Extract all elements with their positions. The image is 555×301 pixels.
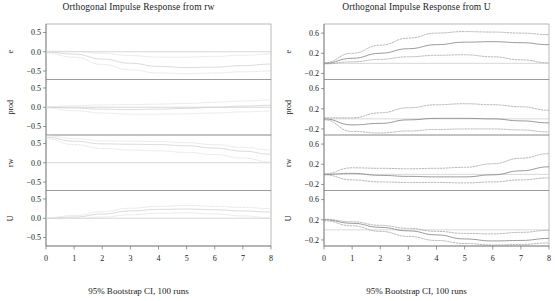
series-fit: [324, 167, 549, 177]
panel-axis-label: e: [284, 50, 293, 54]
panel-stack: 0.60.2−0.2e0.60.2−0.2prod0.60.2−0.2rw0.6…: [278, 18, 555, 280]
panel-prod: 0.50.0−0.5prod: [6, 80, 271, 136]
series-upper: [46, 136, 271, 150]
x-tick-label: 8: [269, 254, 273, 263]
x-tick-label: 2: [100, 254, 104, 263]
series-lower: [46, 139, 271, 162]
y-tick-label: −0.5: [26, 67, 41, 76]
panel-frame: [324, 191, 549, 247]
series-lower: [324, 120, 549, 133]
x-tick-label: 6: [213, 254, 217, 263]
panel-prod: 0.60.2−0.2prod: [284, 80, 549, 136]
y-tick-label: 0.2: [309, 216, 319, 225]
series-fit: [46, 52, 271, 67]
x-tick-label: 3: [128, 254, 132, 263]
panel-U: 0.60.2−0.2U: [284, 191, 549, 247]
y-tick-label: 0.5: [31, 84, 41, 93]
panel-axis-label: prod: [6, 100, 15, 115]
series-group: [324, 32, 549, 64]
series-lower: [324, 221, 549, 245]
panel-frame: [324, 135, 549, 191]
y-tick-label: −0.5: [26, 122, 41, 131]
x-tick-label: 7: [241, 254, 245, 263]
series-group: [324, 154, 549, 183]
y-tick-label: −0.2: [304, 69, 319, 78]
series-upper: [324, 219, 549, 234]
x-tick-label: 0: [322, 254, 326, 263]
y-tick-label: 0.2: [309, 49, 319, 58]
plot-area: 0.60.2−0.2e0.60.2−0.2prod0.60.2−0.2rw0.6…: [278, 18, 555, 280]
series-fit: [324, 118, 549, 125]
series-group: [324, 219, 549, 245]
plot-area: 0.50.0−0.5e0.50.0−0.5prod0.50.0−0.5rw0.5…: [0, 18, 277, 280]
figure-root: Orthogonal Impulse Response from rw 0.50…: [0, 0, 555, 301]
panel-axis-label: rw: [6, 158, 15, 167]
y-tick-label: 0.2: [309, 105, 319, 114]
y-tick-label: 0.2: [309, 160, 319, 169]
x-tick-label: 2: [378, 254, 382, 263]
y-tick-label: −0.2: [304, 125, 319, 134]
y-tick-label: −0.2: [304, 180, 319, 189]
y-tick-label: −0.5: [26, 178, 41, 187]
y-tick-label: 0.0: [31, 159, 41, 168]
impulse-response-figure-u: Orthogonal Impulse Response from U 0.60.…: [278, 0, 555, 301]
panel-axis-label: U: [284, 215, 293, 221]
figure-caption: 95% Bootstrap CI, 100 runs: [0, 286, 277, 296]
panel-stack: 0.50.0−0.5e0.50.0−0.5prod0.50.0−0.5rw0.5…: [0, 18, 277, 280]
series-fit: [324, 220, 549, 241]
panel-e: 0.60.2−0.2e: [284, 24, 549, 80]
series-group: [46, 51, 271, 74]
y-tick-label: 0.6: [309, 195, 319, 204]
series-fit: [46, 137, 271, 154]
impulse-response-figure-rw: Orthogonal Impulse Response from rw 0.50…: [0, 0, 277, 301]
y-tick-label: 0.0: [31, 48, 41, 57]
x-tick-label: 4: [157, 254, 161, 263]
figure-caption: 95% Bootstrap CI, 100 runs: [278, 286, 555, 296]
y-tick-label: −0.5: [26, 233, 41, 242]
x-tick-label: 8: [547, 254, 551, 263]
panel-frame: [324, 24, 549, 80]
series-group: [324, 104, 549, 133]
series-group: [46, 136, 271, 162]
series-lower: [324, 55, 549, 64]
y-tick-label: 0.5: [31, 28, 41, 37]
series-lower: [46, 213, 271, 219]
series-lower: [46, 53, 271, 73]
panel-e: 0.50.0−0.5e: [6, 24, 271, 80]
x-tick-label: 1: [72, 254, 76, 263]
panel-axis-label: rw: [284, 158, 293, 167]
y-tick-label: 0.5: [31, 195, 41, 204]
x-tick-label: 4: [435, 254, 439, 263]
y-tick-label: 0.0: [31, 214, 41, 223]
y-tick-label: −0.2: [304, 236, 319, 245]
x-tick-label: 5: [185, 254, 189, 263]
figure-title: Orthogonal Impulse Response from rw: [0, 2, 277, 12]
x-tick-label: 1: [350, 254, 354, 263]
series-fit: [46, 209, 271, 218]
y-tick-label: 0.6: [309, 29, 319, 38]
panel-rw: 0.60.2−0.2rw: [284, 135, 549, 191]
panel-axis-label: U: [6, 215, 15, 221]
y-tick-label: 0.6: [309, 140, 319, 149]
y-tick-label: 0.5: [31, 139, 41, 148]
x-tick-label: 6: [491, 254, 495, 263]
series-upper: [324, 104, 549, 118]
y-tick-label: 0.0: [31, 103, 41, 112]
x-tick-label: 7: [519, 254, 523, 263]
x-tick-label: 5: [463, 254, 467, 263]
panel-axis-label: e: [6, 50, 15, 54]
panel-U: 0.50.0−0.5U: [6, 191, 271, 247]
series-group: [46, 206, 271, 219]
series-upper: [46, 206, 271, 218]
x-tick-label: 3: [406, 254, 410, 263]
panel-rw: 0.50.0−0.5rw: [6, 135, 271, 191]
panel-axis-label: prod: [284, 100, 293, 115]
y-tick-label: 0.6: [309, 84, 319, 93]
series-lower: [324, 175, 549, 183]
figure-title: Orthogonal Impulse Response from U: [278, 2, 555, 12]
x-tick-label: 0: [44, 254, 48, 263]
panel-frame: [324, 80, 549, 136]
